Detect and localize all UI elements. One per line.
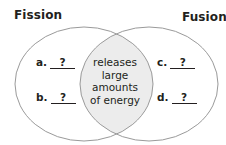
answer-blank: ?	[50, 57, 75, 69]
fusion-item-c: c.?	[157, 57, 195, 69]
fusion-item-d: d.?	[157, 92, 197, 104]
item-letter: c.	[157, 57, 167, 68]
item-letter: a.	[36, 57, 47, 68]
intersection-line: of energy	[86, 94, 144, 107]
item-letter: b.	[36, 92, 48, 103]
intersection-line: amounts	[86, 81, 144, 94]
fission-item-b: b.?	[36, 92, 76, 104]
answer-blank: ?	[172, 92, 197, 104]
fission-item-a: a.?	[36, 57, 75, 69]
intersection-line: releases	[86, 56, 144, 69]
answer-blank: ?	[51, 92, 76, 104]
item-letter: d.	[157, 92, 169, 103]
answer-blank: ?	[170, 57, 195, 69]
intersection-line: large	[86, 69, 144, 82]
intersection-text: releases large amounts of energy	[86, 56, 144, 106]
